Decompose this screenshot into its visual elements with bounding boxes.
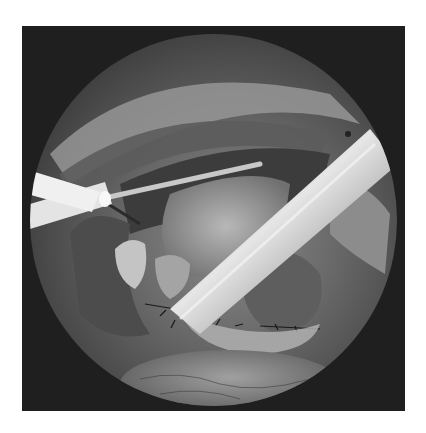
endoscope-view	[30, 34, 397, 406]
image-frame	[22, 26, 405, 411]
surgical-scene	[30, 34, 397, 406]
